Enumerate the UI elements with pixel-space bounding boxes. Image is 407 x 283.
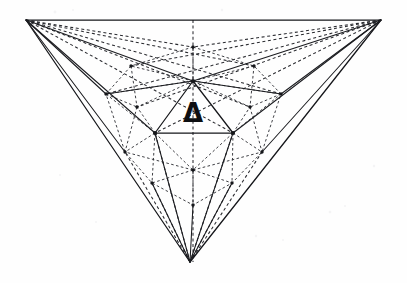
figure-canvas: Δ — [0, 0, 407, 283]
triangle-subdivision-diagram: Δ — [0, 0, 407, 283]
dashed-subdivision-web — [26, 20, 381, 262]
delta-symbol: Δ — [183, 98, 203, 128]
